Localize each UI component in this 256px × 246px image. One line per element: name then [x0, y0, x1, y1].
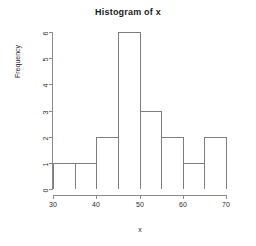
- y-tick-label-1: 1: [43, 163, 50, 167]
- y-tick-label-2: 2: [43, 137, 50, 141]
- histogram-figure: Histogram of x 0 1 2 3 4 5 6 Frequency: [0, 0, 256, 246]
- histogram-bar: [140, 111, 163, 190]
- histogram-bar: [161, 137, 184, 189]
- y-axis-title: Frequency: [14, 45, 21, 78]
- histogram-bar: [96, 137, 119, 189]
- x-tick-40: [96, 195, 97, 199]
- x-tick-label-40: 40: [92, 201, 100, 208]
- x-tick-30: [53, 195, 54, 199]
- histogram-bar: [75, 163, 98, 189]
- y-tick-0: [49, 189, 53, 190]
- y-tick-label-0: 0: [43, 189, 50, 193]
- x-tick-60: [183, 195, 184, 199]
- x-tick-label-60: 60: [179, 201, 187, 208]
- x-tick-label-70: 70: [222, 201, 230, 208]
- y-tick-label-6: 6: [43, 32, 50, 36]
- x-tick-50: [140, 195, 141, 199]
- plot-area: [53, 32, 227, 189]
- y-tick-label-3: 3: [43, 111, 50, 115]
- histogram-bar: [53, 163, 76, 189]
- histogram-bar: [118, 32, 141, 189]
- histogram-bar: [183, 163, 206, 189]
- histogram-bars: [53, 32, 227, 189]
- x-tick-70: [226, 195, 227, 199]
- x-tick-label-50: 50: [136, 201, 144, 208]
- x-tick-label-30: 30: [49, 201, 57, 208]
- x-axis: 30 40 50 60 70: [53, 195, 227, 201]
- x-axis-title: x: [53, 226, 227, 233]
- y-tick-label-4: 4: [43, 84, 50, 88]
- histogram-bar: [204, 137, 227, 189]
- chart-title: Histogram of x: [0, 7, 256, 17]
- y-tick-label-5: 5: [43, 58, 50, 62]
